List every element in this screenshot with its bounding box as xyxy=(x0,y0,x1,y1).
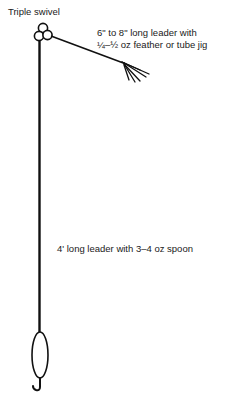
feather-jig-icon xyxy=(122,62,149,82)
spoon-icon xyxy=(32,332,48,378)
long-leader-label: 4' long leader with 3–4 oz spoon xyxy=(57,243,193,255)
short-leader-label-line1: 6" to 8" long leader with xyxy=(97,27,207,39)
short-leader-label: 6" to 8" long leader with ¼–½ oz feather… xyxy=(97,27,207,51)
short-leader-label-line2: ¼–½ oz feather or tube jig xyxy=(97,39,207,51)
rig-illustration xyxy=(0,0,226,398)
hook-icon xyxy=(33,378,40,390)
triple-swivel-label: Triple swivel xyxy=(8,6,60,18)
triple-swivel-icon xyxy=(34,23,52,40)
